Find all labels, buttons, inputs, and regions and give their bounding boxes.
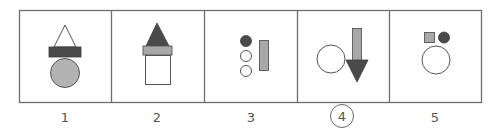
white-circle-icon: [317, 45, 345, 73]
arrow-shaft-icon: [353, 29, 362, 61]
gray-vertical-bar-icon: [260, 41, 269, 71]
option-label-4[interactable]: 4: [338, 109, 346, 124]
dark-small-circle-icon: [439, 32, 450, 43]
white-small-circle-icon: [241, 51, 252, 62]
gray-bar-icon: [143, 46, 172, 55]
gray-circle-icon: [51, 59, 80, 88]
white-circle-icon: [422, 46, 450, 74]
gray-small-square-icon: [425, 33, 435, 43]
option-label-2[interactable]: 2: [153, 110, 161, 125]
figure-options-diagram: 1 2 3 4 5: [0, 0, 502, 134]
dark-small-circle-icon: [241, 36, 252, 47]
option-label-3[interactable]: 3: [247, 110, 255, 125]
option-label-5[interactable]: 5: [431, 110, 439, 125]
option-label-1[interactable]: 1: [61, 110, 69, 125]
dark-bar-icon: [49, 47, 81, 57]
white-small-circle-icon: [241, 66, 252, 77]
white-square-icon: [146, 56, 171, 85]
